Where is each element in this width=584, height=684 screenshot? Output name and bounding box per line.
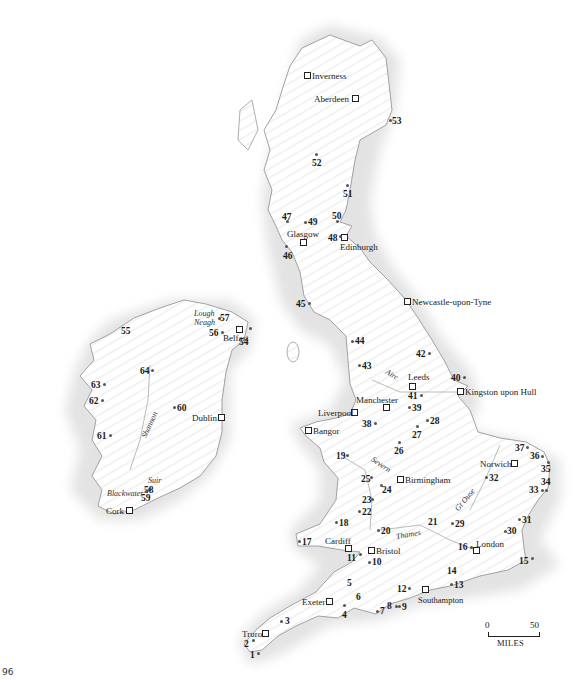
site-label: 44 [355,336,365,346]
site-label: 25 [361,474,371,484]
site-label: 16 [458,542,468,552]
site-label: 7 [380,606,385,616]
site-label: 56 [209,328,219,338]
scale-bar-line [488,632,540,637]
site-label: 35 [541,464,551,474]
site-label: 15 [519,556,529,566]
map: Lough Neagh Shannon Blackwater Suir Aire… [0,0,584,684]
site-label: 9 [402,602,407,612]
site-label: 10 [372,557,382,567]
site-label: 2 [244,639,249,649]
site-label: 43 [362,361,372,371]
site-label: 60 [177,403,187,413]
site-label: 30 [507,526,517,536]
scale-start: 0 [485,620,490,630]
site-label: 20 [381,526,391,536]
site-label: 53 [392,116,402,126]
site-label: 17 [302,537,312,547]
site-label: 26 [394,446,404,456]
site-label: 57 [220,313,230,323]
site-label: 52 [312,158,322,168]
site-label: 49 [308,217,318,227]
site-label: 5 [347,578,352,588]
site-label: 1 [250,650,255,660]
scale-bar: 0 50 MILES [485,620,541,650]
site-label: 32 [489,473,499,483]
site-label: 47 [282,212,292,222]
site-label: 61 [97,431,107,441]
site-label: 38 [362,419,372,429]
site-label: 19 [336,451,346,461]
scale-end: 50 [530,620,539,630]
site-label: 21 [428,517,438,527]
site-label: 13 [454,580,464,590]
site-label: 33 [529,485,539,495]
scale-unit: MILES [497,638,524,648]
site-label: 3 [285,616,290,626]
site-label: 6 [356,592,361,602]
site-label: 50 [332,211,342,221]
site-label: 55 [121,326,131,336]
site-label: 59 [141,493,151,503]
site-label: 14 [447,566,457,576]
site-label: 39 [412,403,422,413]
site-label: 11 [347,553,356,563]
page-number: 96 [2,667,13,677]
site-label: 51 [343,189,353,199]
site-label: 37 [515,443,525,453]
site-label: 24 [382,485,392,495]
site-layer: 1 2 3 4 5 6 7 8 9 10 11 12 13 14 15 16 1… [0,0,584,684]
site-label: 4 [342,610,347,620]
site-label: 64 [140,366,150,376]
site-label: 48 [328,233,338,243]
site-label: 22 [362,507,372,517]
site-label: 18 [339,518,349,528]
site-label: 27 [412,430,422,440]
site-label: 41 [408,391,418,401]
site-label: 36 [530,451,540,461]
site-label: 62 [89,396,99,406]
site-label: 54 [239,337,249,347]
site-label: 42 [416,349,426,359]
site-label: 34 [541,477,551,487]
site-label: 63 [91,380,101,390]
site-label: 40 [451,373,461,383]
site-label: 23 [362,495,372,505]
site-label: 45 [296,299,306,309]
site-label: 12 [397,584,407,594]
site-label: 46 [283,251,293,261]
site-label: 29 [455,519,465,529]
site-label: 8 [387,601,392,611]
site-label: 28 [430,416,440,426]
site-label: 31 [522,515,532,525]
